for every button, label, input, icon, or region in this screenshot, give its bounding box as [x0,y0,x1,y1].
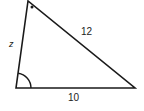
triangle [16,1,135,88]
side-label-base: 10 [68,92,80,103]
triangle-diagram: 12 z 10 [0,0,144,111]
angle-dot-marker [31,6,34,9]
side-label-hypotenuse: 12 [81,26,93,37]
angle-arc-marker [18,73,31,88]
side-label-left: z [8,39,14,49]
